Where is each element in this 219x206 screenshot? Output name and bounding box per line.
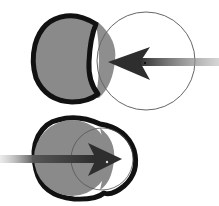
diagram-canvas <box>0 0 219 206</box>
bottom-arrow-shaft <box>0 155 100 163</box>
top-filled-circle <box>33 16 98 102</box>
top-panel <box>33 12 219 110</box>
top-arrow-shaft <box>138 58 219 66</box>
bottom-panel <box>0 118 136 199</box>
diagram-svg <box>0 0 219 206</box>
